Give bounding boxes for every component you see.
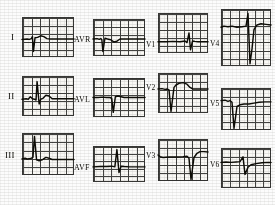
- lead-II-panel: [22, 76, 74, 116]
- lead-II-trace: [22, 76, 74, 116]
- lead-V6-label: V6: [210, 161, 220, 169]
- ecg-sheet: IIIIIIAVRAVLAVFV1V2V3V4V5V6: [0, 0, 275, 205]
- lead-V3-trace: [158, 139, 208, 181]
- lead-V6-panel: [221, 148, 271, 188]
- lead-V3-panel: [158, 139, 208, 181]
- lead-II-label: II: [8, 92, 14, 101]
- lead-III-panel: [22, 133, 74, 175]
- lead-I-label: I: [11, 33, 14, 42]
- lead-aVL-label: AVL: [74, 96, 90, 104]
- lead-V5-panel: [221, 88, 271, 130]
- lead-aVF-label: AVF: [74, 164, 90, 172]
- lead-I-panel: [22, 17, 74, 57]
- lead-V1-panel: [158, 13, 208, 53]
- lead-V6-trace: [221, 148, 271, 188]
- lead-III-trace: [22, 133, 74, 175]
- lead-III-label: III: [5, 151, 15, 160]
- lead-V5-label: V5: [210, 100, 220, 108]
- lead-V1-trace: [158, 13, 208, 53]
- lead-V2-trace: [158, 73, 208, 113]
- lead-V4-panel: [221, 9, 271, 66]
- lead-V5-trace: [221, 88, 271, 130]
- lead-V4-label: V4: [210, 40, 220, 48]
- lead-aVR-trace: [93, 19, 145, 56]
- lead-V4-trace: [221, 9, 271, 66]
- lead-V2-panel: [158, 73, 208, 113]
- lead-V2-label: V2: [146, 84, 156, 92]
- lead-aVF-trace: [93, 146, 145, 182]
- lead-aVR-label: AVR: [74, 36, 90, 44]
- lead-aVR-panel: [93, 19, 145, 56]
- lead-aVF-panel: [93, 146, 145, 182]
- lead-V1-label: V1: [146, 41, 156, 49]
- lead-I-trace: [22, 17, 74, 57]
- lead-aVL-trace: [93, 78, 145, 117]
- lead-aVL-panel: [93, 78, 145, 117]
- lead-V3-label: V3: [146, 152, 156, 160]
